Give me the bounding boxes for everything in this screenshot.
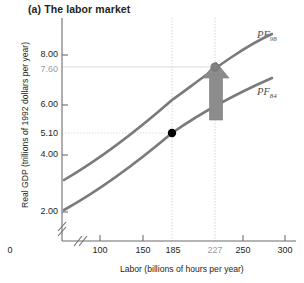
plot-area bbox=[0, 0, 304, 283]
x-axis-ticks bbox=[100, 235, 285, 241]
curve-pf98 bbox=[64, 34, 272, 180]
data-point-1984 bbox=[168, 129, 176, 137]
data-point-1998 bbox=[211, 63, 219, 71]
labor-market-figure: (a) The labor market Real GDP (trillions… bbox=[0, 0, 304, 283]
curve-pf84 bbox=[64, 78, 272, 210]
y-axis-ticks bbox=[62, 55, 68, 212]
